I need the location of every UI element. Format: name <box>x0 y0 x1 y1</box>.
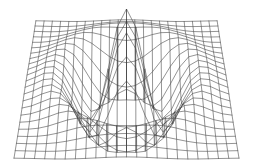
wireframe-mesh-canvas <box>0 0 253 168</box>
wireframe-surface-plot <box>0 0 253 168</box>
